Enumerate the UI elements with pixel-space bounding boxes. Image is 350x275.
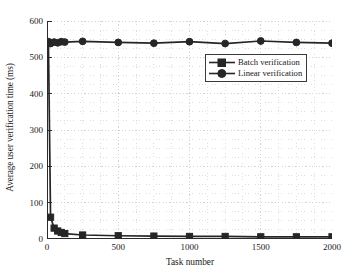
x-axis-tick-labels: 0500100015002000 [47, 242, 332, 254]
x-tick-label: 1500 [238, 242, 284, 252]
x-axis-title: Task number [47, 256, 333, 268]
y-axis-tick-labels: 0100200300400500600 [11, 21, 43, 239]
y-tick-label: 500 [13, 52, 43, 62]
legend-label-linear-verification: Linear verification [238, 68, 302, 79]
legend-item-linear-verification: Linear verification [209, 68, 302, 79]
legend-marker-square-icon [209, 57, 235, 68]
x-tick-label: 500 [95, 242, 141, 252]
chart-figure: Average user verification time (ms) 0100… [0, 0, 350, 275]
x-tick-label: 1000 [167, 242, 213, 252]
y-tick-label: 200 [13, 161, 43, 171]
legend-label-batch-verification: Batch verification [238, 57, 300, 68]
x-tick-label: 0 [24, 242, 70, 252]
x-tick-label: 2000 [309, 242, 350, 252]
y-tick-label: 100 [13, 198, 43, 208]
y-tick-label: 600 [13, 16, 43, 26]
y-tick-label: 300 [13, 125, 43, 135]
y-tick-label: 400 [13, 89, 43, 99]
chart-legend: Batch verification Linear verification [205, 54, 307, 82]
legend-item-batch-verification: Batch verification [209, 57, 302, 68]
legend-marker-circle-icon [209, 68, 235, 79]
